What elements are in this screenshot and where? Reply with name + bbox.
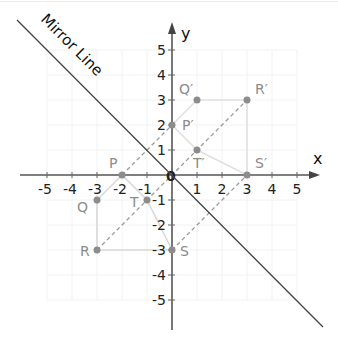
svg-text:-4: -4 — [152, 267, 166, 283]
point-s — [169, 247, 176, 254]
svg-text:-2: -2 — [152, 217, 166, 233]
svg-text:2: 2 — [218, 181, 227, 197]
point-q-prime — [194, 97, 201, 104]
svg-text:-5: -5 — [152, 292, 166, 308]
svg-text:4: 4 — [268, 181, 277, 197]
svg-text:1: 1 — [193, 181, 202, 197]
label-r-prime: R′ — [255, 81, 268, 97]
reflection-diagram: -5 -4 -3 -2 -1 1 2 3 4 5 5 4 3 2 1 -1 -2… — [0, 0, 338, 343]
point-s-prime — [244, 172, 251, 179]
label-r: R — [80, 243, 90, 259]
svg-text:5: 5 — [157, 42, 166, 58]
svg-text:4: 4 — [157, 67, 166, 83]
svg-text:-5: -5 — [38, 181, 52, 197]
svg-text:3: 3 — [243, 181, 252, 197]
svg-text:3: 3 — [157, 92, 166, 108]
svg-text:-2: -2 — [113, 181, 127, 197]
point-p-prime — [169, 122, 176, 129]
point-r — [94, 247, 101, 254]
svg-text:-4: -4 — [63, 181, 77, 197]
svg-text:5: 5 — [293, 181, 302, 197]
point-r-prime — [244, 97, 251, 104]
svg-text:-1: -1 — [138, 181, 152, 197]
point-t — [144, 197, 151, 204]
svg-text:-1: -1 — [152, 192, 166, 208]
x-axis-arrow-icon — [309, 171, 320, 179]
label-p-prime: P′ — [182, 117, 194, 133]
label-s-prime: S′ — [255, 155, 267, 171]
point-p — [119, 172, 126, 179]
label-p: P — [109, 155, 117, 171]
y-axis-label: y — [181, 24, 190, 43]
svg-text:1: 1 — [157, 142, 166, 158]
label-t-prime: T′ — [192, 155, 205, 171]
svg-text:2: 2 — [157, 117, 166, 133]
x-axis-label: x — [313, 149, 322, 168]
label-t: T — [129, 194, 139, 210]
svg-text:-3: -3 — [152, 242, 166, 258]
label-q: Q — [77, 199, 88, 215]
point-q — [94, 197, 101, 204]
mirror-line — [17, 20, 323, 327]
point-t-prime — [194, 147, 201, 154]
label-q-prime: Q′ — [179, 81, 193, 97]
label-s: S — [180, 243, 189, 259]
svg-text:-3: -3 — [88, 181, 102, 197]
y-axis-arrow-icon — [168, 22, 176, 34]
